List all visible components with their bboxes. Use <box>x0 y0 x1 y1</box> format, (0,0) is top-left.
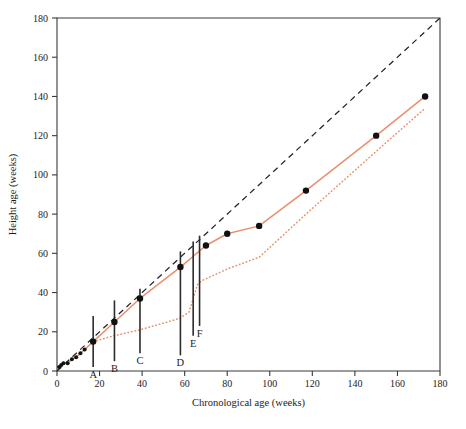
data-point <box>177 264 183 270</box>
annotation-layer: ABCDEF <box>89 236 202 380</box>
data-point <box>422 93 428 99</box>
y-axis-title: Height age (weeks) <box>7 153 19 235</box>
annotation-label-F: F <box>197 328 203 339</box>
y-tick-label: 140 <box>33 91 48 102</box>
y-tick-label: 80 <box>38 209 48 220</box>
data-point <box>70 357 74 361</box>
annotation-label-E: E <box>190 338 196 349</box>
annotation-label-D: D <box>177 357 185 368</box>
data-point-layer <box>57 93 428 369</box>
data-point <box>74 355 78 359</box>
x-tick-label: 60 <box>180 378 190 389</box>
data-point <box>111 319 117 325</box>
y-tick-label: 0 <box>43 366 48 377</box>
y-tick-label: 100 <box>33 169 48 180</box>
x-tick-label: 80 <box>222 378 232 389</box>
data-point <box>203 242 209 248</box>
x-tick-label: 140 <box>347 378 362 389</box>
data-point <box>90 338 96 344</box>
y-tick-label: 40 <box>38 287 48 298</box>
annotation-label-C: C <box>136 355 143 366</box>
y-tick-label: 20 <box>38 326 48 337</box>
data-point <box>66 361 70 365</box>
growth-chart-figure: 020406080100120140160180 020406080100120… <box>0 0 466 429</box>
chart-canvas: 020406080100120140160180 020406080100120… <box>0 0 466 429</box>
x-tick-label: 120 <box>305 378 320 389</box>
data-point <box>137 295 143 301</box>
x-tick-label: 40 <box>137 378 147 389</box>
y-tick-label: 120 <box>33 130 48 141</box>
x-tick-label: 180 <box>433 378 448 389</box>
x-tick-label: 0 <box>55 378 60 389</box>
data-point <box>61 361 65 365</box>
annotation-label-A: A <box>89 369 97 380</box>
x-tick-label: 160 <box>390 378 405 389</box>
data-point <box>373 132 379 138</box>
data-point <box>256 223 262 229</box>
data-point <box>303 187 309 193</box>
x-axis-title: Chronological age (weeks) <box>192 397 306 409</box>
x-tick-label: 100 <box>262 378 277 389</box>
y-axis-ticks: 020406080100120140160180 <box>33 13 57 377</box>
y-tick-label: 180 <box>33 13 48 24</box>
data-point <box>83 347 87 351</box>
y-tick-label: 60 <box>38 248 48 259</box>
data-point <box>224 231 230 237</box>
y-tick-label: 160 <box>33 52 48 63</box>
annotation-label-B: B <box>111 363 118 374</box>
data-point <box>78 351 82 355</box>
